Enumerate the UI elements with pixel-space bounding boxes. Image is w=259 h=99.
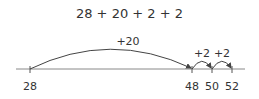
tick-label-50: 50 [205, 80, 219, 93]
tick-label-28: 28 [23, 80, 37, 93]
jump-arrow-plus2-a [192, 61, 211, 69]
jump-arrow-plus2-b [212, 61, 231, 69]
tick-label-48: 48 [185, 80, 199, 93]
jump-label-plus2-a: +2 [194, 47, 210, 60]
jump-arrow-plus20 [30, 49, 191, 69]
number-line-diagram: +20 +2 +2 28 48 50 52 [0, 0, 259, 99]
jump-label-plus20: +20 [116, 35, 139, 48]
jump-label-plus2-b: +2 [214, 47, 230, 60]
tick-label-52: 52 [225, 80, 239, 93]
